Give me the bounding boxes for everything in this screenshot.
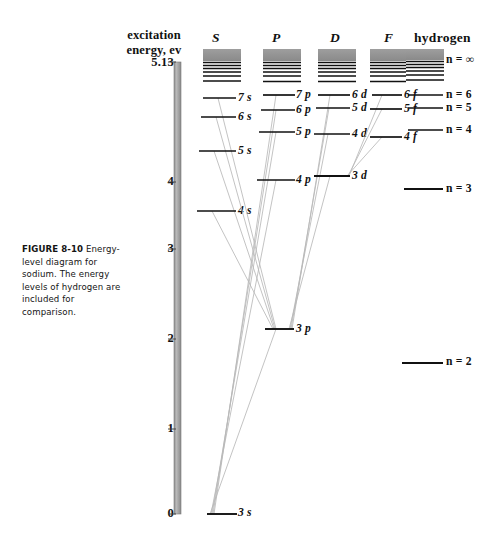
transition-4d-3p — [290, 134, 328, 329]
column-hydrogen-levels — [402, 49, 444, 363]
continuum-band-s — [203, 49, 241, 61]
transition-lines — [210, 95, 382, 514]
figure-canvas: FIGURE 8-10 Energy-level diagram for sod… — [0, 0, 481, 552]
continuum-band-hydrogen — [406, 49, 444, 60]
transition-3d-3p — [289, 176, 330, 329]
rydberg-series-d — [318, 63, 356, 82]
transition-4p-3s — [211, 180, 276, 514]
transition-6s-3p — [216, 117, 275, 329]
rydberg-series-f — [370, 63, 406, 82]
continuum-band-p — [263, 49, 301, 61]
continuum-band-d — [318, 49, 356, 61]
energy-level-diagram-svg — [0, 0, 481, 552]
transition-5s-3p — [214, 151, 274, 329]
energy-axis — [168, 62, 181, 514]
column-f-levels — [370, 49, 406, 137]
continuum-band-f — [370, 49, 406, 61]
rydberg-series-p — [263, 63, 301, 82]
rydberg-series-hydrogen — [406, 62, 444, 81]
rydberg-series-s — [203, 63, 241, 82]
transition-5p-3s — [212, 132, 276, 514]
transition-4s-3p — [212, 211, 273, 329]
column-s-levels — [197, 49, 241, 514]
transition-3p-3s — [210, 329, 276, 514]
